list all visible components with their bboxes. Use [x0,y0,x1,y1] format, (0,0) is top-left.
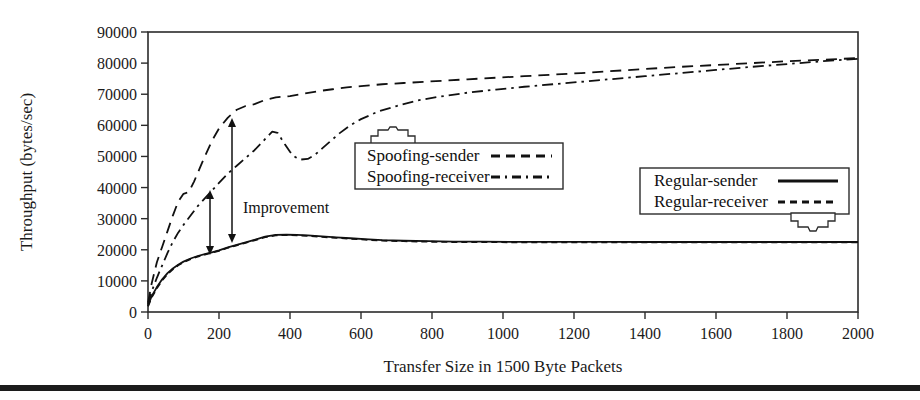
footer-rule [0,385,920,391]
y-axis-title: Throughput (bytes/sec) [17,93,36,251]
x-tick-label: 1200 [558,325,590,342]
x-tick-label: 200 [207,325,231,342]
legend-label-regular-sender: Regular-sender [654,171,758,190]
y-tick-label: 40000 [97,180,137,197]
y-tick-label: 60000 [97,117,137,134]
x-tick-label: 400 [278,325,302,342]
improvement-label: Improvement [243,199,330,217]
y-tick-label: 30000 [97,211,137,228]
x-tick-label: 1000 [487,325,519,342]
y-tick-label: 70000 [97,86,137,103]
legend-label-regular-receiver: Regular-receiver [654,192,768,211]
x-axis-title: Transfer Size in 1500 Byte Packets [384,357,623,376]
throughput-line-chart: 0100002000030000400005000060000700008000… [0,0,920,400]
y-tick-label: 20000 [97,242,137,259]
y-tick-label: 10000 [97,273,137,290]
legend-label-spoofing-receiver: Spoofing-receiver [367,167,490,186]
y-tick-label: 90000 [97,24,137,41]
x-tick-label: 2000 [842,325,874,342]
x-tick-label: 1400 [629,325,661,342]
x-tick-label: 1800 [771,325,803,342]
x-tick-label: 0 [144,325,152,342]
x-tick-label: 600 [349,325,373,342]
y-tick-label: 50000 [97,148,137,165]
legend-label-spoofing-sender: Spoofing-sender [367,146,480,165]
x-tick-label: 800 [420,325,444,342]
figure-container: 0100002000030000400005000060000700008000… [0,0,920,400]
legend-pointer-up-icon [371,127,415,144]
y-tick-label: 80000 [97,55,137,72]
x-tick-label: 1600 [700,325,732,342]
y-tick-label: 0 [129,304,137,321]
